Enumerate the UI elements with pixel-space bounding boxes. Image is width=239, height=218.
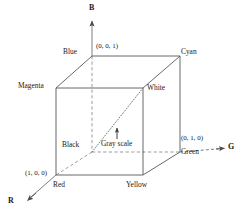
vertex-coord-blue: (0, 0, 1) [96, 43, 118, 50]
vertex-label-cyan: Cyan [181, 48, 197, 55]
vertex-label-black: Black [62, 141, 79, 148]
vertex-label-yellow: Yellow [126, 181, 147, 188]
vertex-label-red: Red [53, 181, 65, 188]
axis-label-g: G [228, 143, 234, 151]
vertex-coord-green: (0, 1, 0) [181, 135, 203, 142]
cube-drawing [0, 0, 239, 218]
rgb-color-cube-figure: B G R Blue (0, 0, 1) Cyan Magenta White … [0, 0, 239, 218]
gray-scale-label: Gray scale [101, 140, 132, 147]
vertex-coord-red: (1, 0, 0) [25, 170, 47, 177]
vertex-label-magenta: Magenta [18, 82, 44, 89]
vertex-label-white: White [147, 84, 165, 91]
vertex-label-green: Green [181, 148, 199, 155]
vertex-label-blue: Blue [63, 48, 77, 55]
axis-r [28, 175, 57, 201]
cube-hidden-edges [56, 56, 180, 175]
cube-visible-edges [56, 56, 180, 175]
axis-label-b: B [89, 4, 94, 12]
axis-label-r: R [8, 197, 14, 205]
